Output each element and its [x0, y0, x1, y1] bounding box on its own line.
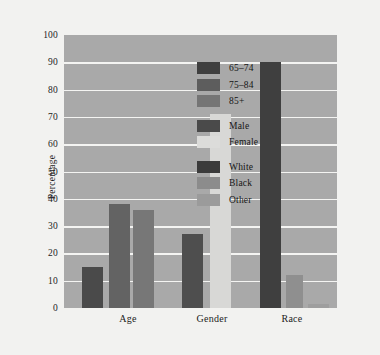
legend-label: Male — [229, 121, 249, 131]
legend-group-spacer — [197, 151, 302, 159]
bar-75-84 — [109, 204, 130, 308]
legend-item: 75–84 — [197, 77, 302, 94]
legend-swatch — [197, 62, 220, 74]
legend-item: 65–74 — [197, 60, 302, 77]
x-tick-label-age: Age — [119, 313, 137, 324]
legend-label: White — [229, 162, 253, 172]
x-tick-label-race: Race — [281, 313, 302, 324]
legend-label: Other — [229, 195, 252, 205]
y-tick-label: 60 — [18, 139, 58, 149]
x-tick-label-gender: Gender — [196, 313, 227, 324]
legend-item: Black — [197, 175, 302, 192]
legend-swatch — [197, 95, 220, 107]
legend-label: Black — [229, 178, 252, 188]
legend-swatch — [197, 79, 220, 91]
legend-swatch — [197, 161, 220, 173]
legend-item: Other — [197, 192, 302, 209]
y-tick-label: 20 — [18, 248, 58, 258]
y-tick-label: 0 — [18, 303, 58, 313]
y-tick-label: 100 — [18, 30, 58, 40]
y-tick-label: 30 — [18, 221, 58, 231]
bar-male — [182, 234, 203, 308]
bar-85- — [133, 210, 154, 308]
y-axis-title: Percentage — [47, 117, 57, 237]
y-tick-label: 10 — [18, 276, 58, 286]
legend-swatch — [197, 120, 220, 132]
legend-swatch — [197, 194, 220, 206]
y-tick-label: 90 — [18, 57, 58, 67]
legend-item: White — [197, 159, 302, 176]
y-tick-label: 40 — [18, 194, 58, 204]
bar-black — [286, 275, 303, 308]
bar-65-74 — [82, 267, 103, 308]
gridline — [64, 226, 337, 228]
bar-other — [308, 304, 329, 308]
legend-item: 85+ — [197, 93, 302, 110]
legend-swatch — [197, 136, 220, 148]
y-tick-label: 70 — [18, 112, 58, 122]
legend-group-spacer — [197, 110, 302, 118]
legend-item: Female — [197, 134, 302, 151]
legend-label: Female — [229, 137, 258, 147]
chart-legend: 65–7475–8485+MaleFemaleWhiteBlackOther — [197, 60, 302, 208]
legend-item: Male — [197, 118, 302, 135]
legend-label: 65–74 — [229, 63, 254, 73]
y-tick-label: 50 — [18, 167, 58, 177]
chart-figure: Percentage 1009080706050403020100 AgeGen… — [0, 0, 380, 355]
legend-label: 75–84 — [229, 80, 254, 90]
legend-swatch — [197, 177, 220, 189]
y-tick-label: 80 — [18, 85, 58, 95]
legend-label: 85+ — [229, 96, 244, 106]
